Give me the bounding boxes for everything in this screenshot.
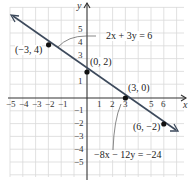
point-label-neg3-4: (−3, 4) [15, 45, 42, 55]
point-label-6-neg2: (6, −2) [133, 122, 160, 132]
y-tick-neg4: −4 [74, 145, 84, 154]
point-6-neg2 [161, 121, 166, 126]
y-tick-neg3: −3 [74, 132, 84, 141]
x-tick-neg1: −1 [58, 100, 68, 109]
annotation-leaders [58, 36, 121, 150]
y-axis-label: y [77, 1, 81, 11]
point-neg3-4 [46, 42, 51, 47]
x-tick-neg2: −2 [45, 100, 55, 109]
y-tick-5: 5 [78, 25, 83, 34]
graph-figure: y x −5 −4 −3 −2 −1 1 2 3 5 6 5 4 3 1 −1 … [0, 0, 191, 187]
x-tick-neg3: −3 [32, 100, 42, 109]
equation-label-1: 2x + 3y = 6 [106, 31, 152, 41]
y-tick-3: 3 [78, 51, 83, 60]
point-label-0-2: (0, 2) [90, 57, 112, 67]
x-tick-3: 3 [123, 100, 128, 109]
x-tick-6: 6 [161, 100, 166, 109]
y-tick-neg5: −5 [74, 158, 84, 167]
y-tick-1: 1 [78, 77, 83, 86]
x-tick-1: 1 [97, 100, 102, 109]
y-tick-neg2: −2 [74, 119, 84, 128]
x-tick-neg5: −5 [6, 100, 16, 109]
equation-line [11, 15, 178, 131]
equation-label-2: −8x − 12y = −24 [94, 150, 162, 160]
leader-eq1 [58, 36, 96, 47]
point-0-2 [84, 69, 89, 74]
x-tick-2: 2 [110, 100, 115, 109]
x-axis-label: x [183, 100, 187, 110]
x-tick-5: 5 [149, 100, 154, 109]
x-tick-neg4: −4 [19, 100, 29, 109]
y-tick-4: 4 [78, 38, 83, 47]
y-tick-neg1: −1 [74, 106, 84, 115]
point-label-3-0: (3, 0) [128, 83, 150, 93]
